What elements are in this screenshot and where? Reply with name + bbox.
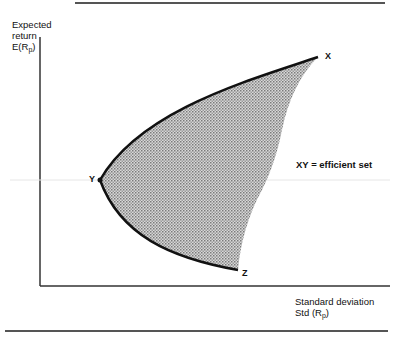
y-axis-label: Expected return E(Rp) xyxy=(12,19,52,55)
bottom-rule xyxy=(5,330,388,332)
point-x-label: X xyxy=(325,51,331,61)
point-y-label: Y xyxy=(89,174,95,184)
feasible-region xyxy=(100,57,318,270)
efficient-set-annotation: XY = efficient set xyxy=(296,159,372,170)
x-axis-label: Standard deviation Std (Rp) xyxy=(295,296,374,321)
point-y-marker xyxy=(98,178,103,183)
point-z-label: Z xyxy=(242,268,248,278)
